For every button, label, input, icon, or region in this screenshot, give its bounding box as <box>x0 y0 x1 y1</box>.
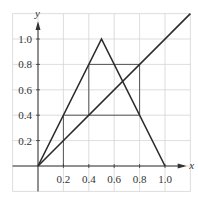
y-tick-label: 0.2 <box>18 135 32 147</box>
x-axis-arrow-icon <box>178 164 187 169</box>
x-tick-label: 0.8 <box>133 173 147 185</box>
x-tick-label: 0.6 <box>107 173 121 185</box>
x-tick-label: 0.2 <box>57 173 71 185</box>
y-tick-label: 0.6 <box>18 84 32 96</box>
y-tick-label: 0.8 <box>18 58 32 70</box>
y-tick-label: 1.0 <box>18 33 32 45</box>
y-axis-label: y <box>34 7 40 19</box>
cobweb-chart: x y 0.20.40.60.81.00.20.40.60.81.0 <box>0 0 198 197</box>
x-axis-label: x <box>188 159 194 171</box>
cobweb-path <box>63 64 139 166</box>
y-tick-label: 0.4 <box>18 109 32 121</box>
x-tick-label: 1.0 <box>158 173 172 185</box>
x-tick-label: 0.4 <box>82 173 96 185</box>
y-axis-arrow-icon <box>36 21 41 30</box>
